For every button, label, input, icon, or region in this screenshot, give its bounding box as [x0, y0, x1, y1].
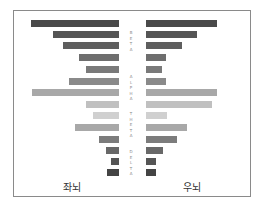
left-bar — [99, 136, 119, 143]
right-bar — [146, 66, 162, 73]
left-bar — [86, 66, 119, 73]
left-hemisphere-label: 좌뇌 — [63, 179, 81, 194]
right-hemisphere-label: 우뇌 — [183, 179, 201, 194]
left-bar — [69, 78, 119, 85]
right-bar — [146, 147, 163, 154]
band-label-delta: DELTA — [127, 149, 135, 177]
right-bar — [146, 20, 217, 27]
left-bar — [63, 42, 119, 49]
left-bar — [107, 169, 119, 176]
right-bar — [146, 112, 167, 119]
right-bar — [146, 31, 197, 38]
right-bar — [146, 136, 177, 143]
left-bar — [111, 158, 119, 165]
left-bar — [53, 31, 119, 38]
right-bar — [146, 89, 217, 96]
right-bar — [146, 124, 187, 131]
right-bar — [146, 158, 156, 165]
band-label-alpha: ALPHA — [127, 74, 135, 102]
band-label-beta: BETA — [127, 30, 135, 52]
left-bar — [93, 112, 119, 119]
band-label-theta: THETA — [127, 111, 135, 139]
left-bar — [75, 124, 119, 131]
left-bar — [32, 89, 119, 96]
left-bar — [86, 101, 119, 108]
right-bar — [146, 101, 212, 108]
right-bar — [146, 54, 166, 61]
right-bar — [146, 78, 166, 85]
right-bar — [146, 42, 182, 49]
left-bar — [106, 147, 119, 154]
left-bar — [31, 20, 119, 27]
right-bar — [146, 169, 156, 176]
left-bar — [79, 54, 119, 61]
